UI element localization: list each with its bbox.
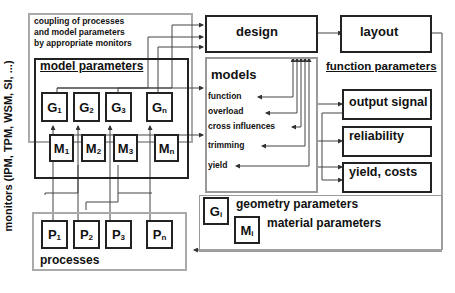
- p3-base: P: [112, 227, 121, 242]
- pn-base: P: [153, 227, 162, 242]
- model-cross-influences: cross influences: [208, 121, 275, 131]
- p1-sub: 1: [57, 233, 61, 242]
- legend-geometry-label: geometry parameters: [236, 197, 358, 211]
- model-parameters-title: model parameters: [40, 59, 143, 73]
- m3-sub: 3: [129, 147, 133, 156]
- p2-base: P: [80, 227, 89, 242]
- p2-sub: 2: [89, 233, 93, 242]
- design-label: design: [236, 24, 278, 39]
- g2-base: G: [79, 100, 89, 115]
- process-p1[interactable]: P1: [41, 220, 68, 249]
- geometry-param-g1[interactable]: G1: [41, 92, 68, 122]
- g2-sub: 2: [89, 106, 93, 115]
- models-title: models: [211, 67, 257, 82]
- material-param-m1[interactable]: M1: [49, 134, 74, 162]
- legend-m-base: M: [240, 223, 251, 238]
- model-trimming: trimming: [208, 140, 244, 150]
- g1-base: G: [47, 100, 57, 115]
- g3-base: G: [111, 100, 121, 115]
- coupling-line-3: by appropriate monitors: [34, 38, 132, 49]
- material-param-m3[interactable]: M3: [113, 134, 138, 162]
- layout-label: layout: [360, 24, 398, 39]
- material-param-mn[interactable]: Mn: [154, 134, 179, 162]
- process-p3[interactable]: P3: [105, 220, 132, 249]
- coupling-text: coupling of processes and model paramete…: [34, 16, 132, 49]
- coupling-line-1: coupling of processes: [34, 16, 132, 27]
- legend-m-sub: i: [251, 229, 253, 238]
- model-yield: yield: [208, 160, 227, 170]
- m3-base: M: [118, 141, 129, 156]
- processes-title: processes: [40, 253, 99, 267]
- function-parameters-title: function parameters: [326, 60, 437, 72]
- p1-base: P: [48, 227, 57, 242]
- legend-g-base: G: [210, 204, 220, 219]
- legend-material-label: material parameters: [267, 216, 381, 230]
- model-function: function: [208, 91, 242, 101]
- material-param-m2[interactable]: M2: [81, 134, 106, 162]
- m2-base: M: [86, 141, 97, 156]
- legend-geometry-icon: Gi: [203, 197, 229, 225]
- mn-base: M: [159, 141, 170, 156]
- reliability-label: reliability: [349, 129, 404, 143]
- g1-sub: 1: [57, 106, 61, 115]
- g3-sub: 3: [121, 106, 125, 115]
- process-p2[interactable]: P2: [73, 220, 100, 249]
- gn-base: G: [152, 100, 162, 115]
- geometry-param-g2[interactable]: G2: [73, 92, 100, 122]
- output-signal-label: output signal: [349, 95, 427, 109]
- legend-material-icon: Mi: [234, 216, 260, 244]
- legend-g-sub: i: [220, 210, 222, 219]
- yield-costs-label: yield, costs: [349, 165, 417, 179]
- model-overload: overload: [208, 106, 243, 116]
- monitors-label: monitors (IPM, TPM, WSM, SI, ...): [2, 46, 14, 246]
- p3-sub: 3: [121, 233, 125, 242]
- geometry-param-gn[interactable]: Gn: [146, 92, 173, 122]
- process-pn[interactable]: Pn: [146, 220, 173, 249]
- geometry-param-g3[interactable]: G3: [105, 92, 132, 122]
- m1-sub: 1: [65, 147, 69, 156]
- gn-sub: n: [162, 106, 167, 115]
- mn-sub: n: [169, 147, 174, 156]
- m1-base: M: [54, 141, 65, 156]
- m2-sub: 2: [97, 147, 101, 156]
- coupling-line-2: and model parameters: [34, 27, 132, 38]
- pn-sub: n: [161, 233, 166, 242]
